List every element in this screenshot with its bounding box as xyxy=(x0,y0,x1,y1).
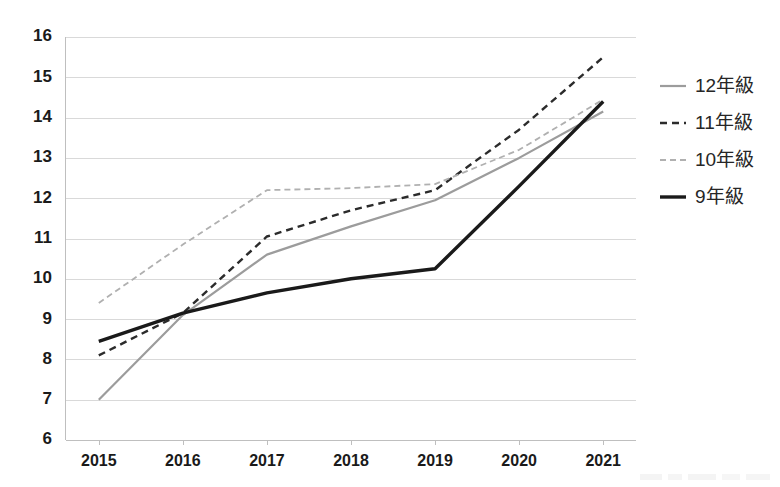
footer-artifact xyxy=(640,474,770,480)
legend-label: 11年級 xyxy=(695,112,753,133)
x-tick-label: 2015 xyxy=(81,452,117,469)
x-tick-label: 2021 xyxy=(585,452,621,469)
chart-canvas: 678910111213141516 201520162017201820192… xyxy=(0,0,780,487)
y-tick-label: 6 xyxy=(43,429,52,448)
y-tick-label: 7 xyxy=(43,389,52,408)
legend-label: 10年級 xyxy=(695,149,754,170)
legend-label: 9年級 xyxy=(695,186,744,207)
y-tick-label: 14 xyxy=(33,107,52,126)
legend-label: 12年級 xyxy=(695,75,754,96)
y-tick-label: 11 xyxy=(34,228,52,247)
x-tick-label: 2016 xyxy=(165,452,201,469)
y-tick-label: 9 xyxy=(43,309,52,328)
x-tick-label: 2019 xyxy=(417,452,453,469)
y-tick-label: 16 xyxy=(33,26,52,45)
y-tick-label: 10 xyxy=(33,268,52,287)
chart-background xyxy=(0,0,780,487)
y-tick-label: 15 xyxy=(33,67,52,86)
y-tick-label: 12 xyxy=(33,188,52,207)
x-tick-label: 2017 xyxy=(249,452,285,469)
x-tick-label: 2018 xyxy=(333,452,369,469)
y-tick-label: 8 xyxy=(43,349,52,368)
line-chart: 678910111213141516 201520162017201820192… xyxy=(0,0,780,487)
x-tick-label: 2020 xyxy=(501,452,537,469)
y-tick-label: 13 xyxy=(33,147,52,166)
